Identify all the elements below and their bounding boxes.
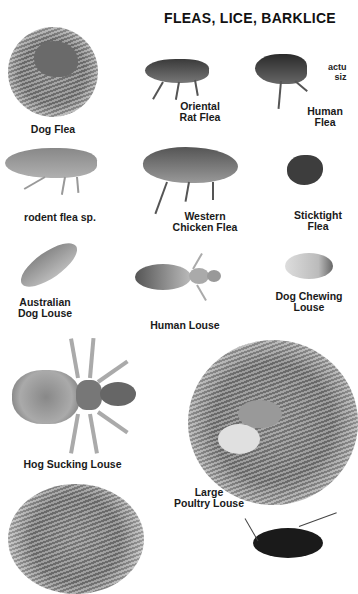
human-louse-label: Human Louse [145,320,225,331]
rodent-flea-image [5,148,100,198]
sticktight-flea-image [287,155,327,195]
dark-insect-image [225,518,346,548]
western-chicken-flea-image [143,145,243,215]
actual-size-note: actusiz [328,62,347,82]
large-poultry-louse-image [188,340,358,505]
barklice-image [8,484,144,594]
human-flea-label: HumanFlea [300,106,350,128]
large-poultry-louse-label: LargePoultry Louse [168,487,250,509]
dog-chewing-louse-label: Dog ChewingLouse [272,291,346,313]
rodent-flea-label: rodent flea sp. [10,212,110,223]
page-title: FLEAS, LICE, BARKLICE [164,10,336,26]
sticktight-flea-label: SticktightFlea [288,210,348,232]
oriental-rat-flea-label: OrientalRat Flea [170,101,230,123]
human-louse-image [135,250,225,310]
australian-dog-louse-image [10,238,80,293]
dog-flea-image [8,27,98,117]
western-chicken-flea-label: WesternChicken Flea [160,211,250,233]
dog-flea-label: Dog Flea [18,124,88,135]
dog-chewing-louse-image [285,253,335,281]
hog-sucking-louse-image [10,332,140,452]
hog-sucking-louse-label: Hog Sucking Louse [15,459,130,470]
australian-dog-louse-label: AustralianDog Louse [10,297,80,319]
human-flea-image [255,50,315,110]
oriental-rat-flea-image [145,55,215,100]
